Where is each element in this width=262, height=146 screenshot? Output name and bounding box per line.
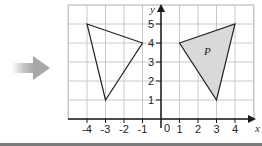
x-axis: [68, 115, 256, 123]
x-tick-label: 1: [176, 123, 182, 135]
x-tick-label: -4: [82, 123, 92, 135]
y-axis-label: y: [149, 3, 155, 15]
diagram-stage: -4-3-2-11234 12345 x y 0 P: [0, 0, 262, 146]
bottom-divider: [0, 143, 262, 146]
y-tick-label: 2: [148, 75, 154, 87]
x-tick-label: -2: [119, 123, 129, 135]
y-tick-label: 4: [148, 37, 154, 49]
y-tick-label: 5: [148, 18, 154, 30]
y-tick-label: 1: [148, 94, 154, 106]
y-axis: [157, 4, 165, 128]
arrow-right-icon: [12, 56, 50, 80]
origin-label: 0: [164, 122, 170, 134]
x-tick-label: -3: [101, 123, 111, 135]
x-tick-label: 4: [232, 123, 238, 135]
x-axis-label: x: [254, 122, 260, 134]
coordinate-grid-diagram: -4-3-2-11234 12345 x y 0 P: [0, 0, 262, 146]
x-tick-label: 3: [213, 123, 219, 135]
x-tick-label: 2: [195, 123, 201, 135]
x-tick-labels: -4-3-2-11234: [82, 119, 238, 135]
y-tick-label: 3: [148, 56, 154, 68]
x-tick-label: -1: [138, 123, 148, 135]
triangle-p-label: P: [203, 45, 211, 57]
